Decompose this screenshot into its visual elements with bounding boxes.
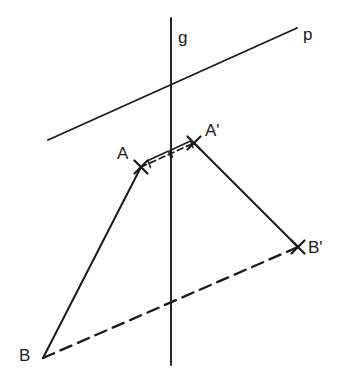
line-p <box>48 28 297 140</box>
x-marker-aprime <box>188 137 201 150</box>
x-marker-bprime <box>292 241 305 254</box>
x-marker-a <box>135 161 148 174</box>
label-point-a: A <box>117 145 128 162</box>
segment-a-to-b <box>43 167 141 358</box>
geometry-figure: g p A A' B B' <box>0 0 344 391</box>
segment-aprime-to-bprime <box>194 143 298 247</box>
label-line-p: p <box>303 26 312 43</box>
label-point-b-prime: B' <box>308 239 323 256</box>
label-point-b: B <box>19 347 30 364</box>
label-point-a-prime: A' <box>205 122 220 139</box>
figure-canvas <box>0 0 344 391</box>
label-line-g: g <box>178 29 187 46</box>
